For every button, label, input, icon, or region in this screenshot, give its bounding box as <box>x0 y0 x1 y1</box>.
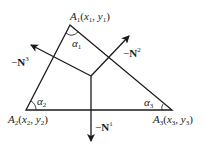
vector-n3-arrow <box>31 45 91 76</box>
vertex-a3-label: A3(x3, y3) <box>152 113 193 127</box>
diagram-svg: A1(x1, y1) A2(x2, y2) A3(x3, y3) α1 α2 α… <box>0 0 209 150</box>
vector-n2-label: −N2 <box>123 46 141 59</box>
angle-alpha1-label: α1 <box>72 37 82 51</box>
angle-alpha3-label: α3 <box>144 96 154 110</box>
angle-arc-alpha3 <box>162 104 163 110</box>
angle-alpha2-label: α2 <box>37 95 47 109</box>
vertex-a2-label: A2(x2, y2) <box>7 113 48 127</box>
vector-n3-label: −N3 <box>11 55 29 68</box>
vector-n1-label: −N1 <box>95 120 113 133</box>
angle-arc-alpha1 <box>66 32 78 35</box>
vector-n2-segment <box>91 56 110 76</box>
angle-arc-alpha2 <box>31 101 36 110</box>
vertex-a1-label: A1(x1, y1) <box>69 10 110 24</box>
triangle-normals-diagram: A1(x1, y1) A2(x2, y2) A3(x3, y3) α1 α2 α… <box>0 0 209 150</box>
